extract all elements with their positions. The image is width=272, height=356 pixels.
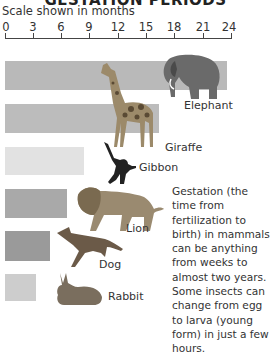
gestation-note: Gestation (the time from fertilization t… <box>172 184 272 356</box>
label-rabbit: Rabbit <box>108 290 143 303</box>
tick-label: 3 <box>29 20 36 34</box>
tick-label: 21 <box>196 20 211 34</box>
bar-rabbit <box>5 274 36 301</box>
label-dog: Dog <box>99 258 121 271</box>
label-giraffe: Giraffe <box>165 141 202 154</box>
label-elephant: Elephant <box>184 99 233 112</box>
tick-label: 6 <box>57 20 64 34</box>
tick-label: 12 <box>111 20 126 34</box>
label-lion: Lion <box>126 222 149 235</box>
tick-label: 9 <box>85 20 92 34</box>
elephant-icon <box>155 53 223 101</box>
tick-label: 0 <box>2 20 9 34</box>
tick-label: 18 <box>167 20 182 34</box>
label-gibbon: Gibbon <box>139 161 178 174</box>
bar-dog <box>5 231 50 261</box>
rabbit-icon <box>54 273 104 305</box>
tick-label: 15 <box>139 20 154 34</box>
gibbon-icon <box>102 140 138 186</box>
bar-lion <box>5 189 67 218</box>
bar-gibbon <box>5 147 84 175</box>
scale-label: Scale shown in months <box>2 4 135 18</box>
giraffe-icon <box>97 63 157 148</box>
tick-label: 24 <box>222 20 237 34</box>
